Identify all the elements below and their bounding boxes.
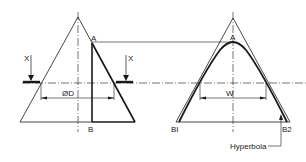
section-marker-right-arrow-icon <box>123 75 129 81</box>
label-a-left: A <box>91 34 97 43</box>
diameter-arrow-right-icon <box>108 97 114 100</box>
width-arrow-right-icon <box>260 97 266 100</box>
label-b1: BI <box>171 125 179 134</box>
label-b: B <box>88 125 93 134</box>
labels: X X A B ØD A BI B2 W Hyperbola <box>24 33 292 151</box>
cone-left-edge-outer <box>176 18 233 122</box>
label-diameter: ØD <box>62 89 74 98</box>
label-width: W <box>226 89 234 98</box>
diagram-svg: X X A B ØD A BI B2 W Hyperbola <box>0 0 306 162</box>
cone-right-edge-outer <box>233 18 290 122</box>
hyperbola-callout-arrow-icon <box>279 114 283 120</box>
label-x-right: X <box>128 54 134 63</box>
section-marker-left-arrow-icon <box>28 75 34 81</box>
diameter-arrow-left-icon <box>41 97 47 100</box>
label-x-left: X <box>24 54 30 63</box>
label-b2: B2 <box>282 125 292 134</box>
width-arrow-left-icon <box>200 97 206 100</box>
label-a-right: A <box>230 33 236 42</box>
cone-left-edge <box>20 17 78 122</box>
left-view <box>20 12 306 132</box>
hyperbola-conic-section-diagram: X X A B ØD A BI B2 W Hyperbola <box>0 0 306 162</box>
label-hyperbola: Hyperbola <box>230 142 267 151</box>
